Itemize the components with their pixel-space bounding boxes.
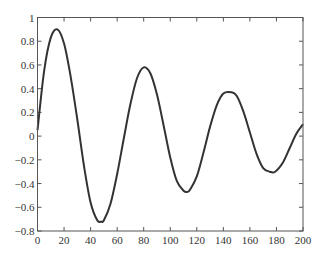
x-tick-label: 60 — [112, 234, 124, 246]
line-chart: 020406080100120140160180200−0.8−0.6−0.4−… — [0, 0, 325, 257]
x-tick-label: 120 — [189, 234, 206, 246]
y-tick-label: 0.6 — [21, 59, 35, 71]
y-tick-label: −0.8 — [15, 225, 35, 237]
x-tick-label: 40 — [85, 234, 97, 246]
y-tick-label: 0 — [29, 130, 35, 142]
x-tick-label: 160 — [242, 234, 259, 246]
x-tick-label: 140 — [215, 234, 232, 246]
x-tick-label: 80 — [138, 234, 150, 246]
x-tick-label: 200 — [295, 234, 312, 246]
y-tick-label: 1 — [29, 12, 35, 24]
x-tick-label: 180 — [268, 234, 285, 246]
y-tick-label: −0.6 — [15, 201, 35, 213]
x-tick-label: 20 — [59, 234, 71, 246]
y-tick-label: 0.8 — [21, 35, 35, 47]
tick-labels: 020406080100120140160180200−0.8−0.6−0.4−… — [15, 12, 312, 247]
y-tick-label: −0.4 — [15, 178, 35, 190]
y-tick-label: −0.2 — [15, 154, 35, 166]
x-tick-label: 0 — [35, 234, 41, 246]
y-tick-label: 0.4 — [21, 83, 35, 95]
x-tick-label: 100 — [162, 234, 179, 246]
data-line — [38, 29, 304, 222]
y-tick-label: 0.2 — [21, 106, 35, 118]
